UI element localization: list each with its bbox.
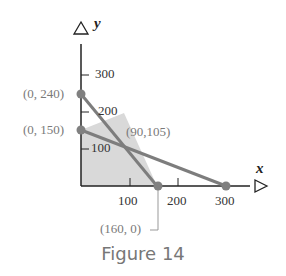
x-axis-label: x (256, 160, 264, 177)
point-label-0-150: (0, 150) (23, 122, 64, 138)
y-axis-label: y (94, 15, 101, 32)
x-axis-arrow-icon (255, 180, 267, 192)
point-0-150 (77, 126, 86, 135)
point-label-160-0: (160, 0) (100, 221, 141, 237)
point-label-90-105: (90,105) (126, 124, 170, 140)
x-tick-label-100: 100 (118, 193, 138, 209)
leader-line (150, 190, 158, 230)
x-tick-label-300: 300 (215, 193, 235, 209)
x-tick-label-200: 200 (167, 193, 187, 209)
point-300-0 (222, 182, 231, 191)
y-tick-label-200: 200 (98, 103, 118, 119)
figure-caption: Figure 14 (0, 243, 286, 264)
y-axis-arrow-icon (74, 22, 88, 34)
point-160-0 (154, 182, 163, 191)
point-0-240 (77, 90, 86, 99)
y-tick-label-300: 300 (95, 66, 115, 82)
y-tick-label-100: 100 (91, 140, 111, 156)
point-label-0-240: (0, 240) (23, 86, 64, 102)
